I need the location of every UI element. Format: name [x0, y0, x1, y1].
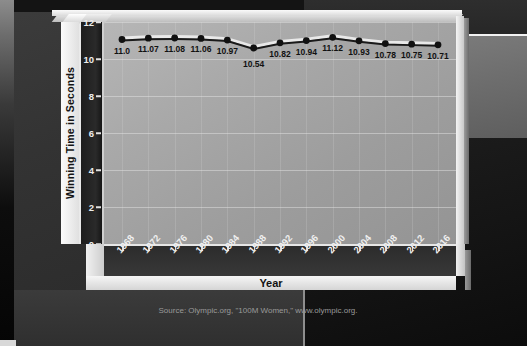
- y-axis-tick-mark: [96, 95, 101, 97]
- data-point-marker[interactable]: [303, 37, 310, 44]
- data-point-marker[interactable]: [198, 35, 205, 42]
- plot-area: 11.011.0711.0811.0610.9710.5410.8210.941…: [104, 22, 456, 244]
- y-axis-tick-mark: [96, 169, 101, 171]
- data-point-label: 11.06: [191, 44, 212, 54]
- data-point-marker[interactable]: [250, 45, 257, 52]
- chart-frame-right: [456, 16, 464, 244]
- background-panel-bottom-left: [14, 290, 304, 346]
- data-point-label: 11.12: [322, 43, 343, 53]
- data-point-marker[interactable]: [224, 37, 231, 44]
- data-point-marker[interactable]: [356, 37, 363, 44]
- data-point-label: 10.94: [296, 47, 317, 57]
- data-point-label: 11.08: [164, 44, 185, 54]
- y-axis-block: 024681012: [79, 22, 104, 244]
- data-point-label: 10.71: [427, 51, 448, 61]
- y-axis-title-label: Winning Time in Seconds: [64, 67, 76, 199]
- x-axis-block-left-end: [86, 244, 104, 276]
- data-point-label: 11.07: [138, 44, 159, 54]
- y-axis-tick-mark: [96, 58, 101, 60]
- x-axis-block-right-depth: [465, 250, 471, 290]
- x-axis-title: Year: [86, 276, 456, 290]
- data-point-label: 10.97: [217, 46, 238, 56]
- y-axis-title: Winning Time in Seconds: [61, 22, 79, 244]
- data-point-marker[interactable]: [435, 41, 442, 48]
- data-point-marker[interactable]: [119, 36, 126, 43]
- data-point-label: 11.0: [114, 46, 130, 56]
- chart-frame-top: [52, 10, 462, 16]
- source-citation: Source: Olympic.org, "100M Women," www.o…: [118, 306, 398, 315]
- background-seam-vertical: [303, 290, 305, 346]
- data-point-label: 10.82: [269, 49, 290, 59]
- data-point-marker[interactable]: [329, 34, 336, 41]
- data-point-marker[interactable]: [171, 35, 178, 42]
- y-axis-tick-mark: [96, 132, 101, 134]
- background-strip-left: [0, 0, 14, 346]
- x-axis-block-right-cap: [456, 244, 465, 276]
- line-chart: 11.011.0711.0811.0610.9710.5410.8210.941…: [43, 10, 483, 290]
- data-point-marker[interactable]: [408, 41, 415, 48]
- data-point-marker[interactable]: [277, 39, 284, 46]
- data-point-label: 10.78: [375, 50, 396, 60]
- data-point-label: 10.75: [401, 50, 422, 60]
- chart-frame-right-edge: [464, 18, 469, 244]
- data-point-marker[interactable]: [145, 35, 152, 42]
- background-seam-bottom: [0, 340, 16, 346]
- data-point-marker[interactable]: [382, 40, 389, 47]
- y-axis-tick-mark: [96, 21, 101, 23]
- y-axis-tick-mark: [96, 206, 101, 208]
- data-point-label: 10.93: [348, 47, 369, 57]
- data-point-label: 10.54: [243, 59, 264, 69]
